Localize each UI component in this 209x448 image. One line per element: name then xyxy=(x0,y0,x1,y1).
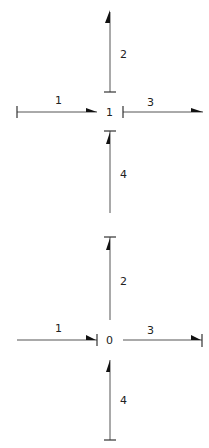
arm-label: 4 xyxy=(120,394,127,407)
arm-label: 2 xyxy=(120,48,127,61)
arrowhead-up-icon xyxy=(106,132,110,144)
arrowhead-up-icon xyxy=(105,10,110,23)
node-label: 1 xyxy=(106,106,113,119)
arm-2-top: 2 xyxy=(104,10,127,92)
arrowhead-right-icon xyxy=(86,335,96,340)
arm-4-top: 4 xyxy=(104,131,127,213)
arm-label: 3 xyxy=(147,96,154,109)
diagram-top: 2 4 1 3 1 xyxy=(17,10,203,213)
arm-4-bottom: 4 xyxy=(104,360,127,440)
intersection-diagrams: 2 4 1 3 1 2 xyxy=(0,0,209,448)
arm-3-top: 3 xyxy=(123,96,203,118)
arm-label: 4 xyxy=(120,168,127,181)
arrowhead-right-icon xyxy=(191,335,201,340)
arm-label: 3 xyxy=(147,324,154,337)
arm-label: 1 xyxy=(55,94,62,107)
arrowhead-up-icon xyxy=(106,360,110,372)
arrowhead-right-icon xyxy=(86,108,97,112)
node-label: 0 xyxy=(106,334,113,347)
diagram-bottom: 2 4 1 3 0 xyxy=(17,237,202,440)
arm-1-bottom: 1 xyxy=(17,322,97,346)
arm-1-top: 1 xyxy=(17,94,97,118)
arrowhead-up-icon xyxy=(106,238,110,250)
arm-label: 2 xyxy=(120,275,127,288)
arrowhead-right-icon xyxy=(191,108,203,112)
arm-3-bottom: 3 xyxy=(123,324,202,347)
arm-label: 1 xyxy=(55,322,62,335)
arm-2-bottom: 2 xyxy=(104,237,127,320)
